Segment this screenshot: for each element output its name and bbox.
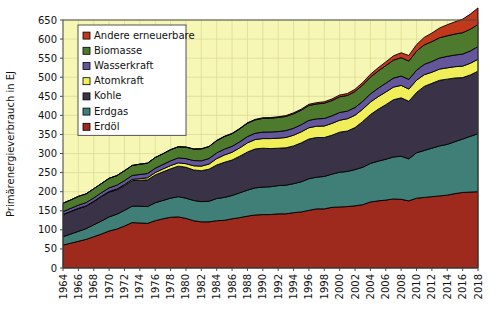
y-tick-label: 350	[38, 129, 57, 140]
x-tick-label: 1966	[73, 274, 84, 299]
y-tick-label: 500	[38, 72, 57, 83]
legend-swatch	[83, 108, 90, 115]
legend-label: Erdöl	[94, 121, 120, 132]
y-axis-title: Primärenergieverbrauch in EJ	[5, 71, 16, 217]
y-axis-ticks: 050100150200250300350400450500550600650	[38, 15, 63, 274]
y-tick-label: 300	[38, 148, 57, 159]
x-tick-label: 2018	[473, 274, 484, 299]
x-tick-label: 2000	[334, 274, 345, 299]
legend-swatch	[83, 47, 90, 54]
x-tick-label: 1990	[257, 274, 268, 299]
y-tick-label: 100	[38, 224, 57, 235]
x-tick-label: 1994	[288, 274, 299, 299]
x-tick-label: 2008	[396, 274, 407, 299]
legend-swatch	[83, 93, 90, 100]
x-tick-label: 1992	[273, 274, 284, 299]
legend-label: Atomkraft	[94, 75, 144, 86]
x-tick-label: 1964	[58, 274, 69, 299]
legend-swatch	[83, 123, 90, 130]
x-tick-label: 1978	[165, 274, 176, 299]
y-tick-label: 50	[44, 243, 57, 254]
x-tick-label: 1998	[319, 274, 330, 299]
x-tick-label: 1982	[196, 274, 207, 299]
legend-label: Kohle	[94, 90, 121, 101]
y-tick-label: 450	[38, 91, 57, 102]
x-tick-label: 1976	[150, 274, 161, 299]
x-tick-label: 2016	[457, 274, 468, 299]
x-tick-label: 2004	[365, 274, 376, 299]
x-tick-label: 1988	[242, 274, 253, 299]
legend-swatch	[83, 78, 90, 85]
legend-label: Biomasse	[94, 45, 142, 56]
x-tick-label: 1996	[303, 274, 314, 299]
y-tick-label: 600	[38, 34, 57, 45]
y-tick-label: 400	[38, 110, 57, 121]
y-tick-label: 0	[51, 263, 57, 274]
x-tick-label: 1984	[211, 274, 222, 299]
x-tick-label: 2014	[442, 274, 453, 299]
x-tick-label: 1972	[119, 274, 130, 299]
y-tick-label: 550	[38, 53, 57, 64]
y-tick-label: 200	[38, 186, 57, 197]
x-tick-label: 1980	[180, 274, 191, 299]
chart-container: 050100150200250300350400450500550600650 …	[0, 0, 497, 313]
x-axis-ticks: 1964196619681970197219741976197819801982…	[58, 268, 484, 299]
x-tick-label: 2012	[426, 274, 437, 299]
x-tick-label: 1986	[227, 274, 238, 299]
legend-swatch	[83, 63, 90, 70]
stacked-area-chart: 050100150200250300350400450500550600650 …	[0, 0, 497, 313]
x-tick-label: 2010	[411, 274, 422, 299]
x-tick-label: 1974	[134, 274, 145, 299]
x-tick-label: 2002	[350, 274, 361, 299]
x-tick-label: 1970	[104, 274, 115, 299]
legend-label: Wasserkraft	[94, 60, 153, 71]
y-tick-label: 150	[38, 205, 57, 216]
x-tick-label: 2006	[380, 274, 391, 299]
legend-label: Erdgas	[94, 106, 128, 117]
x-tick-label: 1968	[88, 274, 99, 299]
legend-label: Andere erneuerbare	[94, 30, 195, 41]
y-tick-label: 650	[38, 15, 57, 26]
chart-legend: Andere erneuerbareBiomasseWasserkraftAto…	[78, 25, 195, 135]
legend-swatch	[83, 32, 90, 39]
y-tick-label: 250	[38, 167, 57, 178]
